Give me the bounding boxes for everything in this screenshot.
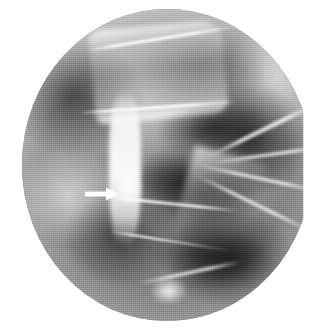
collimation-vignette — [22, 9, 312, 321]
radiograph-circular-field — [22, 9, 312, 321]
radiograph-figure — [0, 0, 321, 335]
